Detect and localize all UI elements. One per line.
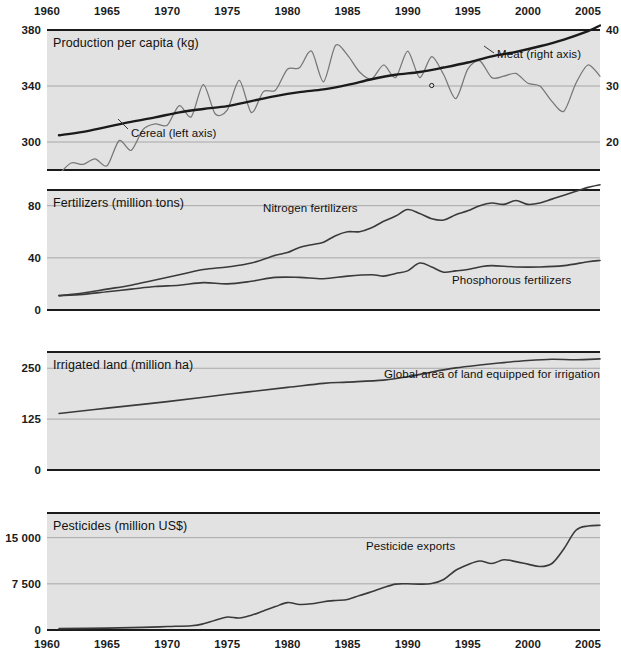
- y-tick-irrigated-land-0: 0: [0, 464, 41, 476]
- x-tick-bottom-1980: 1980: [274, 638, 300, 650]
- x-tick-bottom-1970: 1970: [154, 638, 180, 650]
- panel-title-irrigated-land: Irrigated land (million ha): [53, 358, 193, 372]
- panel-title-production-per-capita: Production per capita (kg): [53, 36, 199, 50]
- series-annotation-nitrogen-fertilizers: Nitrogen fertilizers: [263, 202, 358, 214]
- x-tick-top-1965: 1965: [94, 5, 120, 17]
- y-tick-fertilizers-80: 80: [0, 200, 41, 212]
- panel-title-fertilizers: Fertilizers (million tons): [53, 196, 184, 210]
- y2-tick-production-per-capita-40: 40: [606, 24, 619, 36]
- x-tick-bottom-1990: 1990: [395, 638, 421, 650]
- series-annotation-global-area-of-land-equipped-for-irrigation: Global area of land equipped for irrigat…: [384, 368, 600, 380]
- y2-tick-production-per-capita-20: 20: [606, 136, 619, 148]
- y-tick-pesticides-7500: 7 500: [0, 578, 41, 590]
- x-tick-top-1990: 1990: [395, 5, 421, 17]
- x-tick-top-1960: 1960: [34, 5, 60, 17]
- x-tick-top-1970: 1970: [154, 5, 180, 17]
- series-annotation-pesticide-exports: Pesticide exports: [366, 540, 455, 552]
- x-tick-bottom-2005: 2005: [575, 638, 601, 650]
- y-tick-production-per-capita-380: 380: [0, 24, 41, 36]
- series-annotation-phosphorous-fertilizers: Phosphorous fertilizers: [452, 274, 571, 286]
- x-tick-bottom-1965: 1965: [94, 638, 120, 650]
- x-tick-top-1975: 1975: [214, 5, 240, 17]
- y-tick-production-per-capita-340: 340: [0, 80, 41, 92]
- y-tick-fertilizers-40: 40: [0, 252, 41, 264]
- panel-title-pesticides: Pesticides (million US$): [53, 519, 187, 533]
- series-annotation-cereal-left-axis: Cereal (left axis): [131, 127, 217, 139]
- x-tick-top-2000: 2000: [515, 5, 541, 17]
- meat-line-marker: [430, 83, 434, 87]
- y-tick-fertilizers-0: 0: [0, 304, 41, 316]
- y-tick-production-per-capita-300: 300: [0, 136, 41, 148]
- y-tick-pesticides-15000: 15 000: [0, 532, 41, 544]
- chart-canvas: [0, 0, 621, 672]
- y-tick-irrigated-land-125: 125: [0, 413, 41, 425]
- y-tick-irrigated-land-250: 250: [0, 362, 41, 374]
- series-annotation-meat-right-axis: Meat (right axis): [497, 48, 581, 60]
- x-tick-bottom-1975: 1975: [214, 638, 240, 650]
- x-tick-top-1985: 1985: [335, 5, 361, 17]
- multi-panel-chart-figure: 30034038020304004080012525007 50015 0001…: [0, 0, 621, 672]
- x-tick-top-1980: 1980: [274, 5, 300, 17]
- y2-tick-production-per-capita-30: 30: [606, 80, 619, 92]
- x-tick-bottom-2000: 2000: [515, 638, 541, 650]
- x-tick-bottom-1960: 1960: [34, 638, 60, 650]
- y-tick-pesticides-0: 0: [0, 624, 41, 636]
- x-tick-top-2005: 2005: [575, 5, 601, 17]
- x-tick-top-1995: 1995: [455, 5, 481, 17]
- x-tick-bottom-1985: 1985: [335, 638, 361, 650]
- x-tick-bottom-1995: 1995: [455, 638, 481, 650]
